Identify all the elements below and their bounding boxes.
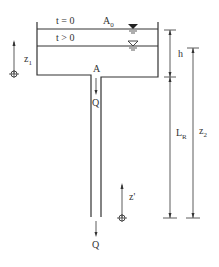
label-h: h [178, 48, 183, 59]
flow-arrow-upper-icon [95, 78, 98, 95]
tank [37, 22, 158, 217]
flow-arrow-lower-icon [95, 221, 98, 237]
z1-axis-arrow-icon [9, 40, 19, 78]
label-z1: z1 [24, 53, 32, 67]
label-pipe-area: A [93, 63, 101, 74]
LR-dimension-line [163, 77, 177, 218]
label-area-A0: A0 [103, 15, 114, 29]
label-flow-upper: Q [92, 97, 100, 108]
tank-right-wall-and-pipe-right [101, 22, 158, 217]
zprime-axis-arrow-icon [117, 183, 127, 222]
label-zprime: z' [129, 191, 135, 202]
label-t0: t = 0 [56, 15, 74, 26]
label-z2: z2 [199, 125, 207, 139]
tank-left-wall-and-pipe-left [37, 22, 91, 217]
z2-dimension-line [186, 48, 200, 218]
label-tpos: t > 0 [56, 32, 74, 43]
label-LR: LR [176, 127, 187, 141]
label-flow-lower: Q [92, 239, 100, 250]
h-dimension-line [164, 30, 176, 77]
tank-drain-diagram: t = 0 t > 0 A0 A Q Q z1 h LR [0, 0, 219, 267]
